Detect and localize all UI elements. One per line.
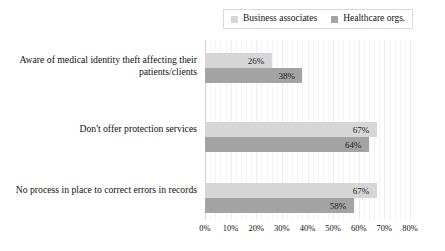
legend-item-business-associates: Business associates (231, 14, 317, 24)
bar-value-label: 64% (345, 140, 362, 149)
x-axis-tick-labels: 0%10%20%30%40%50%60%70%80% (205, 224, 410, 238)
bar-chart: Business associates Healthcare orgs. Awa… (0, 0, 445, 251)
bar-value-label: 38% (278, 71, 295, 80)
square-marker-icon (331, 16, 338, 23)
chart-legend: Business associates Healthcare orgs. (223, 9, 413, 29)
bar-value-label: 67% (353, 125, 370, 134)
bar-value-label: 67% (353, 186, 370, 195)
bar-business-associates (205, 122, 377, 137)
category-label: Aware of medical identity theft affectin… (7, 54, 197, 78)
gridline-minor (405, 40, 406, 220)
legend-label: Business associates (243, 14, 317, 24)
x-axis-tick-label: 50% (325, 224, 341, 233)
x-axis-tick-label: 20% (248, 224, 264, 233)
category-label: Don't offer protection services (7, 123, 197, 135)
x-axis-tick-label: 80% (402, 224, 418, 233)
gridline-minor (390, 40, 391, 220)
x-axis-tick-label: 60% (351, 224, 367, 233)
category-label: No process in place to correct errors in… (7, 184, 197, 196)
x-axis-tick-label: 0% (199, 224, 210, 233)
x-axis-tick-label: 40% (300, 224, 316, 233)
square-marker-icon (231, 16, 238, 23)
legend-item-healthcare-orgs: Healthcare orgs. (331, 14, 405, 24)
bar-value-label: 58% (330, 201, 347, 210)
bar-business-associates (205, 183, 377, 198)
bar-value-label: 26% (248, 56, 265, 65)
gridline-major (384, 40, 385, 220)
gridline-minor (395, 40, 396, 220)
gridline-minor (400, 40, 401, 220)
plot-area: 26% 38% 67% 64% 67% 58% (205, 40, 410, 220)
x-axis-tick-label: 70% (377, 224, 393, 233)
x-axis-tick-label: 10% (223, 224, 239, 233)
x-axis-tick-label: 30% (274, 224, 290, 233)
gridline-major (410, 40, 411, 220)
gridline-minor (379, 40, 380, 220)
legend-label: Healthcare orgs. (343, 14, 405, 24)
